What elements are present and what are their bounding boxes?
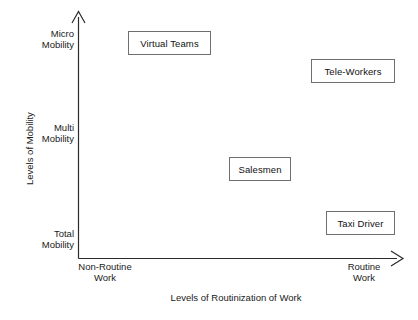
- y-tick-label-multi-mobility: Multi Mobility: [14, 123, 74, 144]
- node-box-salesmen[interactable]: Salesmen: [229, 157, 291, 181]
- x-tick-label-non-routine-work: Non-Routine Work: [62, 262, 148, 283]
- node-box-taxi-driver[interactable]: Taxi Driver: [326, 211, 395, 235]
- x-axis-title: Levels of Routinization of Work: [136, 292, 336, 303]
- diagram-canvas: Levels of Mobility Micro Mobility Multi …: [0, 0, 418, 320]
- y-tick-label-micro-mobility: Micro Mobility: [14, 29, 74, 50]
- node-box-tele-workers[interactable]: Tele-Workers: [311, 59, 395, 83]
- y-tick-label-total-mobility: Total Mobility: [14, 229, 74, 250]
- x-tick-label-routine-work: Routine Work: [324, 262, 404, 283]
- node-box-virtual-teams[interactable]: Virtual Teams: [128, 31, 211, 55]
